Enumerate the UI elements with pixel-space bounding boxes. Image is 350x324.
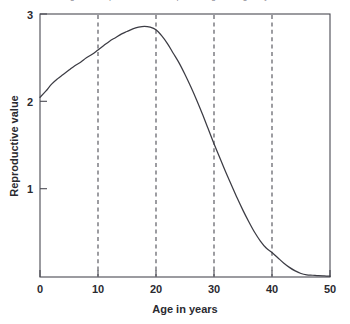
y-axis-ticks bbox=[40, 14, 47, 189]
vertical-guide-lines bbox=[98, 15, 272, 276]
y-tick-label-2: 2 bbox=[27, 96, 33, 108]
reproductive-value-chart: 3 2 1 0 10 20 30 40 50 Age in years Repr… bbox=[0, 0, 350, 324]
reproductive-value-curve bbox=[40, 26, 330, 276]
x-tick-label-50: 50 bbox=[324, 283, 336, 295]
x-axis-ticks bbox=[40, 270, 330, 277]
figure-container: Figure 1 Reproductive value plotted agai… bbox=[0, 0, 350, 324]
y-tick-label-3: 3 bbox=[27, 9, 33, 21]
y-axis-title: Reproductive value bbox=[8, 95, 20, 196]
plot-frame bbox=[40, 14, 330, 277]
x-axis-title: Age in years bbox=[152, 303, 217, 315]
x-tick-label-40: 40 bbox=[266, 283, 278, 295]
y-tick-label-1: 1 bbox=[27, 183, 33, 195]
x-tick-label-20: 20 bbox=[150, 283, 162, 295]
x-tick-label-30: 30 bbox=[208, 283, 220, 295]
x-tick-label-0: 0 bbox=[37, 283, 43, 295]
x-tick-label-10: 10 bbox=[92, 283, 104, 295]
